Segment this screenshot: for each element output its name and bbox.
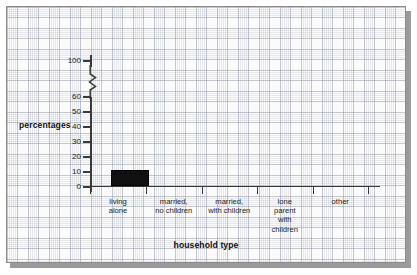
- x-category-line: with: [257, 215, 313, 224]
- x-axis-title: household type: [7, 240, 405, 250]
- x-category-line: married,: [146, 197, 202, 206]
- x-category-label-married-with-children: married, with children: [202, 197, 258, 215]
- x-category-line: parent: [257, 206, 313, 215]
- y-tick-label-100: 100: [55, 57, 81, 65]
- y-tick-label-60: 60: [55, 93, 81, 101]
- x-category-label-living-alone: living alone: [90, 197, 146, 215]
- x-category-line: married,: [202, 197, 258, 206]
- x-tick-4: [313, 187, 314, 194]
- y-tick-100: [83, 60, 91, 61]
- x-tick-5: [368, 187, 369, 194]
- y-tick-60: [83, 96, 91, 97]
- x-category-line: living: [90, 197, 146, 206]
- x-category-line: alone: [90, 206, 146, 215]
- y-tick-20: [83, 156, 91, 157]
- x-category-label-married-no-children: married, no children: [146, 197, 202, 215]
- y-axis-title: percentages: [19, 120, 71, 130]
- x-tick-1: [146, 187, 147, 194]
- x-category-line: no children: [146, 206, 202, 215]
- axis-break-icon: [85, 65, 99, 99]
- plot-area: 100 60 50 40 30 20 10 0: [7, 7, 405, 262]
- y-tick-50: [83, 111, 91, 112]
- y-tick-30: [83, 141, 91, 142]
- chart-page: 100 60 50 40 30 20 10 0: [0, 0, 417, 275]
- y-tick-label-50: 50: [55, 108, 81, 116]
- graph-paper-sheet: 100 60 50 40 30 20 10 0: [6, 6, 406, 263]
- x-tick-0: [90, 187, 91, 194]
- bar-living-alone[interactable]: [111, 170, 149, 187]
- y-tick-label-0: 0: [55, 183, 81, 191]
- x-category-label-other: other: [313, 197, 369, 206]
- x-tick-3: [257, 187, 258, 194]
- x-category-line: other: [313, 197, 369, 206]
- y-tick-10: [83, 171, 91, 172]
- x-category-line: with children: [202, 206, 258, 215]
- y-tick-label-10: 10: [55, 168, 81, 176]
- y-tick-40: [83, 126, 91, 127]
- x-category-line: lone: [257, 197, 313, 206]
- y-tick-label-30: 30: [55, 138, 81, 146]
- x-category-line: children: [257, 225, 313, 234]
- x-tick-2: [202, 187, 203, 194]
- y-tick-label-20: 20: [55, 153, 81, 161]
- x-category-label-lone-parent-with-children: lone parent with children: [257, 197, 313, 234]
